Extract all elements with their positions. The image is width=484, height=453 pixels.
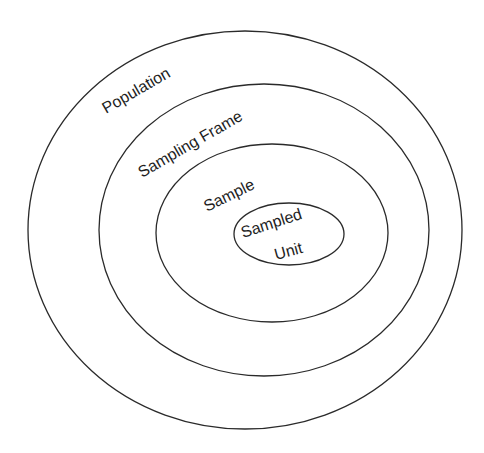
nested-sampling-diagram: Population Sampling Frame Sample Sampled… bbox=[0, 0, 484, 453]
sample-label: Sample bbox=[201, 176, 257, 215]
sampled-unit-label-line2: Unit bbox=[272, 239, 304, 263]
population-label: Population bbox=[99, 64, 173, 117]
sampled-unit-label-line1: Sampled bbox=[239, 205, 304, 241]
sample-ellipse bbox=[156, 144, 388, 322]
